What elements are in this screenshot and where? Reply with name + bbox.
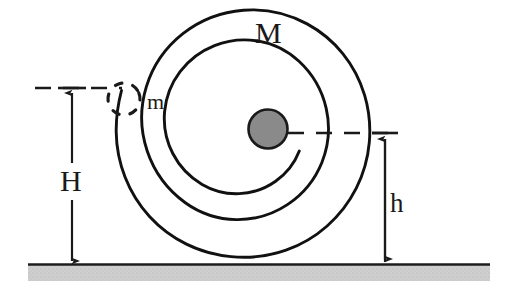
spiral-centre-hub [249,110,288,149]
label-height-H: H [60,166,82,196]
guide-lines [35,88,400,133]
centre-mass-circle [249,110,288,149]
label-height-h: h [390,190,404,217]
label-spiral-mass-M: M [255,18,282,48]
ground [28,265,490,282]
point-mass-dashed-circle [103,78,145,120]
ground-hatch-band [28,265,490,281]
label-point-mass-m: m [147,91,164,113]
point-mass-m-marker [103,78,145,120]
physics-diagram: M m H h [0,0,516,302]
